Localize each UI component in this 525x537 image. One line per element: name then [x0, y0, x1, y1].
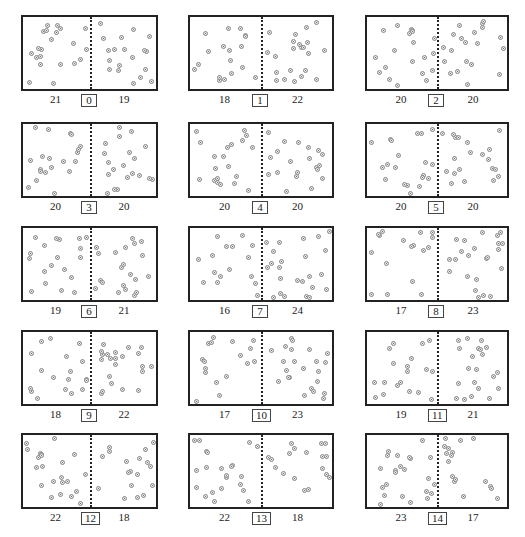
particle-left: [418, 230, 423, 235]
left-count-label: 21: [44, 93, 68, 105]
particle-left: [72, 61, 77, 66]
particle-left: [228, 58, 233, 63]
particle-left: [29, 51, 34, 56]
particle-left: [221, 44, 226, 49]
particle-right: [146, 274, 151, 279]
particle-left: [34, 465, 39, 470]
particle-left: [227, 48, 232, 53]
partition-line: [261, 124, 263, 196]
particle-left: [78, 501, 83, 506]
particle-right: [481, 293, 486, 298]
particle-left: [420, 438, 425, 443]
particle-right: [100, 454, 105, 459]
particle-right: [284, 368, 289, 373]
particle-right: [267, 30, 272, 35]
particle-right: [127, 150, 132, 155]
particle-right: [491, 374, 496, 379]
partition-line: [437, 17, 439, 89]
particle-right: [292, 446, 297, 451]
particle-right: [106, 160, 111, 165]
particle-right: [449, 453, 454, 458]
particle-right: [480, 230, 485, 235]
particle-right: [274, 70, 279, 75]
particle-left: [246, 188, 251, 193]
particle-right: [309, 186, 314, 191]
particle-left: [219, 466, 224, 471]
particle-left: [377, 70, 382, 75]
particle-right: [291, 46, 296, 51]
particle-left: [432, 36, 437, 41]
particle-right: [106, 48, 111, 53]
particle-right: [324, 287, 329, 292]
particle-right: [489, 486, 494, 491]
particle-left: [38, 169, 43, 174]
particle-left: [241, 488, 246, 493]
particle-right: [125, 175, 130, 180]
particle-right: [322, 48, 327, 53]
particle-left: [197, 177, 202, 182]
particle-left: [429, 491, 434, 496]
particle-right: [277, 265, 282, 270]
particle-left: [240, 233, 245, 238]
particle-left: [69, 275, 74, 280]
particle-left: [43, 281, 48, 286]
particle-right: [109, 381, 114, 386]
particle-left: [411, 40, 416, 45]
particle-left: [217, 75, 222, 80]
right-count-label: 22: [286, 93, 310, 105]
container-box: [365, 433, 509, 509]
particle-right: [100, 389, 105, 394]
partition-line: [261, 228, 263, 300]
particle-left: [392, 48, 397, 53]
particle-right: [316, 148, 321, 153]
particle-left: [426, 176, 431, 181]
particle-left: [255, 293, 260, 298]
particle-left: [194, 129, 199, 134]
particle-left: [42, 269, 47, 274]
particle-right: [457, 23, 462, 28]
left-count-label: 23: [389, 511, 413, 523]
container-box: [21, 433, 158, 509]
particle-right: [269, 261, 274, 266]
particle-left: [395, 453, 400, 458]
particle-left: [402, 467, 407, 472]
particle-right: [474, 367, 479, 372]
particle-left: [383, 177, 388, 182]
particle-right: [471, 436, 476, 441]
particle-right: [496, 386, 501, 391]
partition-line: [261, 435, 263, 507]
particle-right: [289, 347, 294, 352]
particle-right: [101, 342, 106, 347]
particle-left: [248, 346, 253, 351]
container-box: [21, 122, 158, 198]
particle-right: [501, 46, 506, 51]
right-count-label: 23: [286, 408, 310, 420]
particle-left: [42, 243, 47, 248]
panel-step-14: 231417: [365, 433, 509, 529]
step-number-box: 10: [252, 409, 271, 422]
particle-right: [100, 280, 105, 285]
particle-left: [391, 361, 396, 366]
particle-left: [420, 175, 425, 180]
particle-left: [39, 453, 44, 458]
particle-left: [247, 440, 252, 445]
particle-right: [470, 354, 475, 359]
particle-left: [234, 174, 239, 179]
panel-step-6: 19621: [21, 226, 158, 322]
particle-right: [138, 75, 143, 80]
particle-right: [149, 79, 154, 84]
step-number-box: 1: [252, 94, 268, 107]
particle-left: [27, 80, 32, 85]
container-box: [21, 15, 158, 91]
particle-left: [215, 176, 220, 181]
panel-step-4: 20420: [188, 122, 334, 218]
particle-right: [276, 379, 281, 384]
particle-right: [491, 178, 496, 183]
particle-right: [130, 236, 135, 241]
partition-line: [90, 124, 92, 196]
particle-right: [107, 58, 112, 63]
particle-right: [288, 68, 293, 73]
particle-right: [268, 155, 273, 160]
particle-right: [476, 295, 481, 300]
particle-right: [480, 352, 485, 357]
